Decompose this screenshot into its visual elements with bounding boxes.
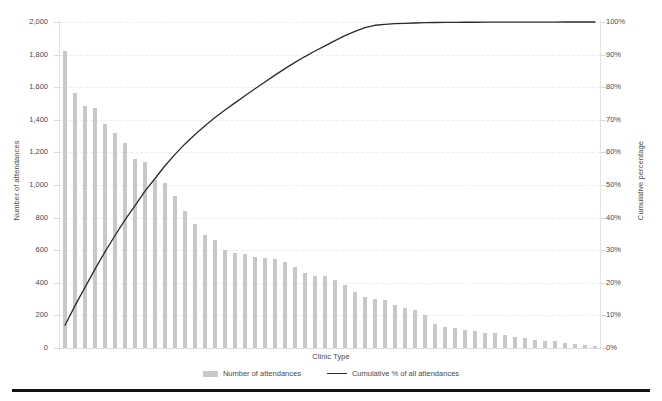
line-swatch-icon [327,373,347,374]
legend-item-bars: Number of attendances [203,369,301,378]
y-axis-left-tick-label: 200 [35,311,48,319]
y-axis-left-tick-label: 1,400 [29,116,48,124]
y-axis-right-tickmark [601,218,606,219]
y-axis-right-tickmark [601,87,606,88]
y-axis-left-tickmark [54,87,59,88]
legend-label-bars: Number of attendances [223,369,301,378]
y-axis-left-tick-label: 2,000 [29,18,48,26]
y-axis-left-tickmark [54,218,59,219]
y-axis-left-tick-label: 1,800 [29,51,48,59]
y-axis-right-tickmark [601,250,606,251]
y-axis-right-tick-label: 40% [606,214,621,222]
y-axis-right-tick-label: 70% [606,116,621,124]
y-axis-right-tick-label: 100% [606,18,625,26]
y-axis-left-tick-label: 600 [35,246,48,254]
y-axis-left-tickmark [54,22,59,23]
y-axis-right-tick-label: 60% [606,148,621,156]
y-axis-right-tick-label: 0% [606,344,617,352]
y-axis-left-tick-label: 400 [35,279,48,287]
y-axis-right-tickmark [601,315,606,316]
y-axis-left-tick-label: 0 [44,344,48,352]
y-axis-right-ticks: 0%10%20%30%40%50%60%70%80%90%100% [606,0,658,401]
y-axis-right-tick-label: 30% [606,246,621,254]
legend-item-line: Cumulative % of all attendances [327,369,459,378]
y-axis-left-tickmark [54,120,59,121]
y-axis-left-tick-label: 1,200 [29,148,48,156]
y-axis-right-tick-label: 50% [606,181,621,189]
y-axis-left-tick-label: 1,600 [29,83,48,91]
bottom-divider [12,389,650,392]
y-axis-left-ticks: 02004006008001,0001,2001,4001,6001,8002,… [0,0,48,401]
y-axis-left-tick-label: 800 [35,214,48,222]
y-axis-right-tickmark [601,283,606,284]
y-axis-right-tickmark [601,55,606,56]
y-axis-left-tickmark [54,250,59,251]
y-axis-right-tickmark [601,120,606,121]
y-axis-right-tickmark [601,22,606,23]
x-axis-line [59,348,601,349]
y-axis-left-tickmark [54,348,59,349]
y-axis-right-tick-label: 10% [606,311,621,319]
y-axis-left-tickmark [54,55,59,56]
y-axis-left-tickmark [54,152,59,153]
chart-legend: Number of attendances Cumulative % of al… [0,369,662,378]
y-axis-right-tickmark [601,152,606,153]
x-axis-title: Clinic Type [0,352,662,361]
y-axis-right-tickmark [601,348,606,349]
cumulative-line-series [60,22,600,348]
legend-label-line: Cumulative % of all attendances [352,369,459,378]
y-axis-left-tickmark [54,185,59,186]
bar-swatch-icon [203,371,218,377]
y-axis-right-tickmark [601,185,606,186]
pareto-chart: Number of attendances Cumulative percent… [0,0,662,401]
plot-area [60,22,600,348]
y-axis-left-tick-label: 1,000 [29,181,48,189]
y-axis-left-tickmark [54,315,59,316]
y-axis-left-tickmark [54,283,59,284]
y-axis-right-tick-label: 20% [606,279,621,287]
y-axis-right-tick-label: 90% [606,51,621,59]
y-axis-right-tick-label: 80% [606,83,621,91]
